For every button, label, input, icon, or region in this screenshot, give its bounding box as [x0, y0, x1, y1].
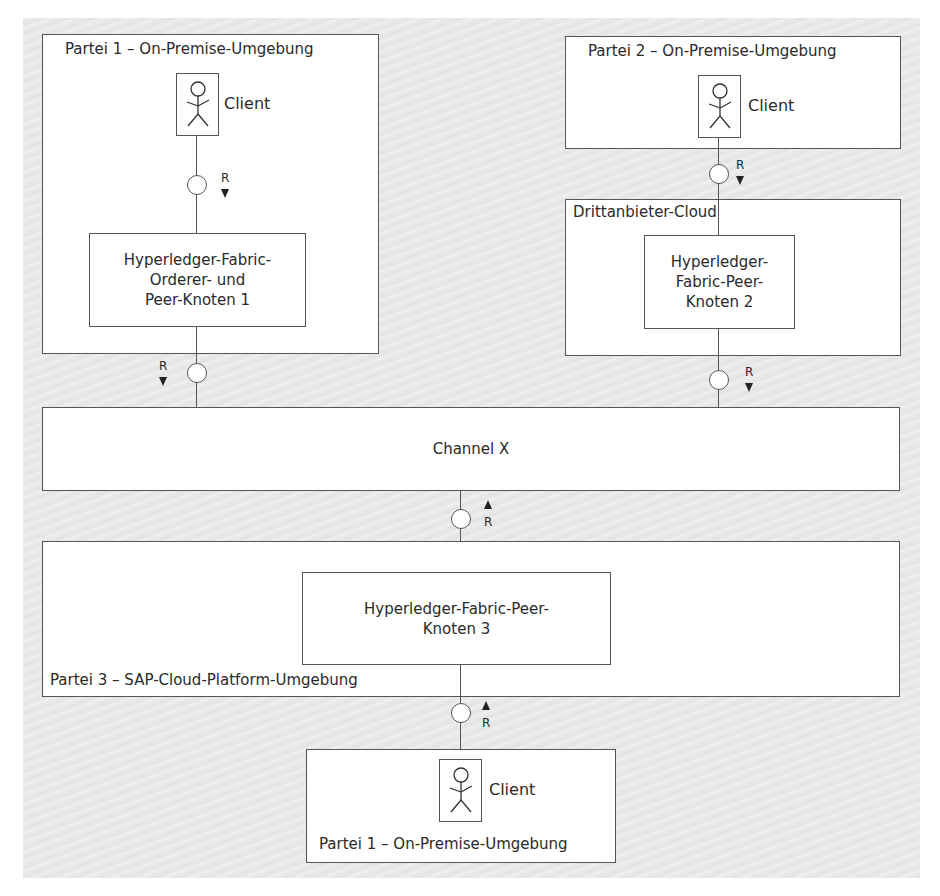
r-label: R [482, 717, 490, 729]
r-label: R [745, 366, 753, 378]
user-actor-icon [699, 76, 742, 139]
party1-top-client-label: Client [224, 94, 270, 113]
r-label: R [484, 516, 492, 528]
channel-x-label: Channel X [42, 407, 900, 491]
party2-client-label: Client [748, 96, 794, 115]
arrow-up-icon [482, 701, 490, 710]
node2-line-1: Hyperledger- [671, 252, 768, 272]
arrow-up-icon [484, 500, 492, 509]
r-label: R [221, 172, 229, 184]
r-label: R [159, 360, 167, 372]
party1-bottom-title: Partei 1 – On-Premise-Umgebung [319, 835, 568, 853]
interface-circle-icon [451, 703, 471, 723]
third-party-cloud-title: Drittanbieter-Cloud [573, 203, 717, 221]
party1-top-title: Partei 1 – On-Premise-Umgebung [65, 40, 314, 58]
interface-circle-icon [187, 175, 207, 195]
node3-line-1: Hyperledger-Fabric-Peer- [364, 599, 549, 619]
party1-top-client-actor [176, 73, 219, 136]
arrow-down-icon [159, 377, 167, 386]
connector-line [718, 199, 719, 235]
node1-line-3: Peer-Knoten 1 [145, 290, 250, 310]
arrow-down-icon [221, 189, 229, 198]
user-actor-icon [177, 74, 220, 137]
arrow-down-icon [736, 176, 744, 185]
r-label: R [736, 159, 744, 171]
node3-line-2: Knoten 3 [423, 619, 490, 639]
arrow-down-icon [745, 383, 753, 392]
node1-line-2: Orderer- und [150, 270, 245, 290]
interface-circle-icon [709, 370, 729, 390]
connector-line [718, 329, 719, 408]
node1-line-1: Hyperledger-Fabric- [124, 250, 271, 270]
node2-line-2: Fabric-Peer- [676, 272, 764, 292]
party2-client-actor [698, 75, 741, 138]
user-actor-icon [440, 760, 483, 823]
orderer-peer-node-1-label: Hyperledger-Fabric- Orderer- und Peer-Kn… [89, 233, 306, 327]
peer-node-2-label: Hyperledger- Fabric-Peer- Knoten 2 [644, 235, 795, 329]
party1-bottom-client-actor [439, 759, 482, 822]
peer-node-3-label: Hyperledger-Fabric-Peer- Knoten 3 [302, 572, 611, 665]
interface-circle-icon [187, 363, 207, 383]
party1-bottom-client-label: Client [489, 780, 535, 799]
party2-title: Partei 2 – On-Premise-Umgebung [588, 42, 837, 60]
interface-circle-icon [709, 164, 729, 184]
node2-line-3: Knoten 2 [686, 292, 753, 312]
party3-title: Partei 3 – SAP-Cloud-Platform-Umgebung [50, 671, 358, 689]
interface-circle-icon [451, 509, 471, 529]
